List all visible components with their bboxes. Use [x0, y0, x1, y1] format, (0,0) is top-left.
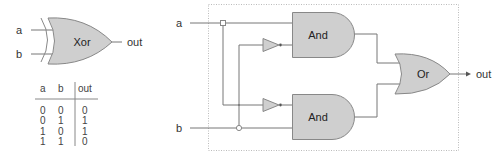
wire-b-branch: [239, 45, 263, 128]
truth-table-cell: 1: [58, 115, 64, 126]
wire-and-bottom-out: [354, 84, 400, 117]
and-gate-bottom: And: [293, 95, 355, 140]
not-gate-bottom: [263, 99, 282, 112]
circuit-input-b-label: b: [176, 122, 182, 134]
wire-and-top-out: [354, 34, 400, 63]
truth-table: a b out 0 0 0 0 1 1 1 0 1 1 1 0: [35, 82, 98, 147]
not-bubble-icon: [279, 44, 282, 47]
and-gate-top: And: [293, 13, 355, 58]
xor-input-b-label: b: [16, 48, 22, 60]
truth-table-header-b: b: [58, 83, 64, 94]
not-gate-icon: [263, 99, 279, 112]
xor-implementation-circuit: a b out: [176, 5, 491, 151]
or-gate-label: Or: [417, 68, 430, 80]
xor-gate-label: Xor: [73, 36, 90, 48]
truth-table-cell: 1: [40, 136, 46, 147]
truth-table-cell: 0: [40, 115, 46, 126]
output-arrow-icon: [466, 72, 471, 77]
junction-b-icon: [236, 125, 241, 130]
xor-extra-curve: [41, 18, 48, 62]
truth-table-header-a: a: [40, 83, 46, 94]
truth-table-header-out: out: [78, 83, 92, 94]
truth-table-cell: 0: [82, 136, 88, 147]
not-bubble-icon: [279, 104, 282, 107]
truth-table-row: 1 0 1: [40, 126, 88, 137]
truth-table-row: 1 1 0: [40, 136, 88, 147]
not-gate-top: [263, 39, 282, 52]
not-gate-icon: [263, 39, 279, 52]
circuit-input-a-label: a: [176, 17, 183, 29]
or-gate: Or: [395, 54, 450, 94]
and-gate-bottom-label: And: [308, 111, 328, 123]
wire-a-branch: [223, 23, 263, 105]
truth-table-cell: 1: [58, 136, 64, 147]
circuit-output-label: out: [476, 68, 491, 80]
xor-circuit-diagram: a b Xor out a b out 0 0 0 0 1 1 1 0 1: [0, 0, 502, 158]
wire-crossing-dot: [238, 104, 240, 106]
truth-table-row: 0 1 1: [40, 115, 88, 126]
junction-a-icon: [221, 21, 226, 26]
xor-output-label: out: [127, 36, 142, 48]
xor-symbol: a b Xor out: [16, 18, 142, 64]
and-gate-top-label: And: [308, 29, 328, 41]
truth-table-row: 0 0 0: [40, 105, 88, 116]
truth-table-cell: 1: [82, 115, 88, 126]
xor-input-a-label: a: [16, 24, 23, 36]
